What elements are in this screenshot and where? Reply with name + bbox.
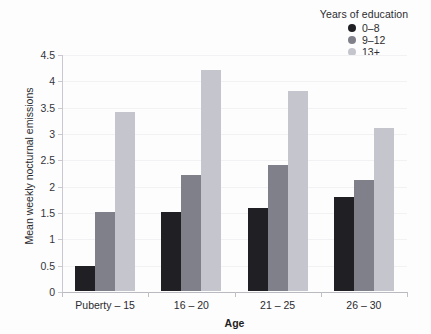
y-axis-line bbox=[62, 55, 63, 293]
legend-label-9-12: 9–12 bbox=[362, 34, 385, 46]
y-tick-mark bbox=[58, 55, 62, 56]
y-tick-mark bbox=[58, 239, 62, 240]
bar bbox=[161, 212, 181, 291]
y-tick-mark bbox=[58, 134, 62, 135]
y-axis-title: Mean weekly nocturnal emissions bbox=[23, 51, 35, 281]
bar-group-inner bbox=[334, 54, 394, 291]
y-tick-label: 4 bbox=[49, 75, 55, 87]
bar bbox=[201, 70, 221, 291]
x-tick-label: 26 – 30 bbox=[346, 299, 381, 311]
plot-area: 00.511.522.533.544.5 Puberty – 1516 – 20… bbox=[62, 55, 407, 292]
bar bbox=[95, 212, 115, 291]
bar-group bbox=[161, 54, 221, 291]
y-tick-mark bbox=[58, 213, 62, 214]
y-tick-mark bbox=[58, 81, 62, 82]
bar bbox=[354, 180, 374, 291]
x-tick-mark bbox=[321, 292, 322, 297]
legend-item-0-8: 0–8 bbox=[348, 22, 428, 33]
x-tick-label: 21 – 25 bbox=[260, 299, 295, 311]
bar bbox=[374, 128, 394, 291]
x-tick-mark bbox=[407, 292, 408, 297]
y-tick-label: 0.5 bbox=[40, 260, 55, 272]
x-tick-mark bbox=[148, 292, 149, 297]
legend-items: 0–8 9–12 13+ bbox=[300, 22, 428, 57]
bar-group bbox=[75, 54, 135, 291]
legend-label-0-8: 0–8 bbox=[362, 22, 380, 34]
y-tick-label: 4.5 bbox=[40, 49, 55, 61]
y-tick-label: 1.5 bbox=[40, 207, 55, 219]
bar-group bbox=[334, 54, 394, 291]
y-tick-label: 0 bbox=[49, 286, 55, 298]
x-tick-mark bbox=[235, 292, 236, 297]
bar bbox=[181, 175, 201, 291]
x-tick-label: Puberty – 15 bbox=[75, 299, 135, 311]
legend-title: Years of education bbox=[300, 8, 428, 20]
x-tick-mark bbox=[62, 292, 63, 297]
y-tick-mark bbox=[58, 187, 62, 188]
bar-group bbox=[248, 54, 308, 291]
legend-item-9-12: 9–12 bbox=[348, 34, 428, 45]
y-tick-mark bbox=[58, 108, 62, 109]
y-tick-label: 3 bbox=[49, 128, 55, 140]
bar bbox=[75, 266, 95, 291]
bar-group-inner bbox=[248, 54, 308, 291]
chart-legend: Years of education 0–8 9–12 13+ bbox=[300, 8, 428, 58]
bar bbox=[115, 112, 135, 291]
bar bbox=[248, 208, 268, 291]
legend-swatch-icon-0-8 bbox=[348, 24, 356, 32]
bar-group-inner bbox=[161, 54, 221, 291]
y-tick-label: 3.5 bbox=[40, 102, 55, 114]
bar-group-inner bbox=[75, 54, 135, 291]
y-tick-label: 1 bbox=[49, 233, 55, 245]
y-tick-mark bbox=[58, 160, 62, 161]
y-tick-label: 2.5 bbox=[40, 154, 55, 166]
y-tick-mark bbox=[58, 266, 62, 267]
x-tick-label: 16 – 20 bbox=[174, 299, 209, 311]
bar bbox=[268, 165, 288, 291]
bar bbox=[288, 91, 308, 291]
legend-swatch-icon-9-12 bbox=[348, 36, 356, 44]
x-axis-title: Age bbox=[62, 317, 407, 329]
y-tick-label: 2 bbox=[49, 181, 55, 193]
bar bbox=[334, 197, 354, 291]
bar-chart-figure: Years of education 0–8 9–12 13+ Mean wee… bbox=[0, 0, 431, 334]
